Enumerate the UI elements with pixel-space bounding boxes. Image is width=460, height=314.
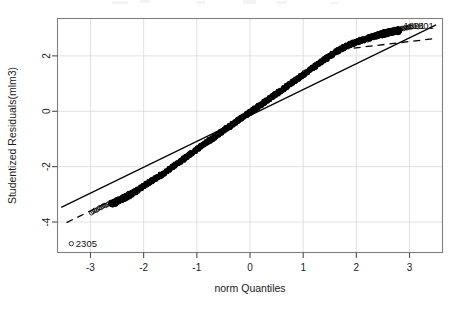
data-point-outlier-2305: [69, 241, 73, 245]
qq-plot-figure: -3-2-10123-4-202norm QuantilesStudentize…: [0, 0, 460, 314]
x-axis-title: norm Quantiles: [214, 282, 285, 294]
x-tick-label: -2: [139, 262, 148, 273]
scan-artifact: [140, 0, 150, 3]
point-label-2305: 2305: [76, 238, 97, 249]
scan-artifact: [112, 1, 128, 4]
scan-artifact: [243, 0, 256, 4]
scan-artifact: [196, 1, 205, 4]
point-label-1891: 1891: [404, 20, 425, 31]
x-tick-label: -1: [192, 262, 201, 273]
x-tick-label: -3: [86, 262, 95, 273]
grid-lines: [58, 19, 443, 253]
x-tick-label: 2: [354, 262, 360, 273]
scan-artifact: [330, 2, 338, 4]
y-tick-label: -2: [41, 162, 52, 171]
y-tick-label: 0: [41, 108, 52, 114]
x-tick-label: 1: [300, 262, 306, 273]
y-tick-label: 2: [41, 53, 52, 59]
qq-plot-svg: -3-2-10123-4-202norm QuantilesStudentize…: [0, 0, 460, 314]
x-tick-label: 0: [247, 262, 253, 273]
scan-artifact: [276, 1, 287, 4]
y-axis-title: Studentized Residuals(mlm3): [6, 67, 18, 204]
y-tick-label: -4: [41, 217, 52, 226]
x-tick-label: 3: [407, 262, 413, 273]
point-annotations: 230518011891: [76, 20, 434, 249]
